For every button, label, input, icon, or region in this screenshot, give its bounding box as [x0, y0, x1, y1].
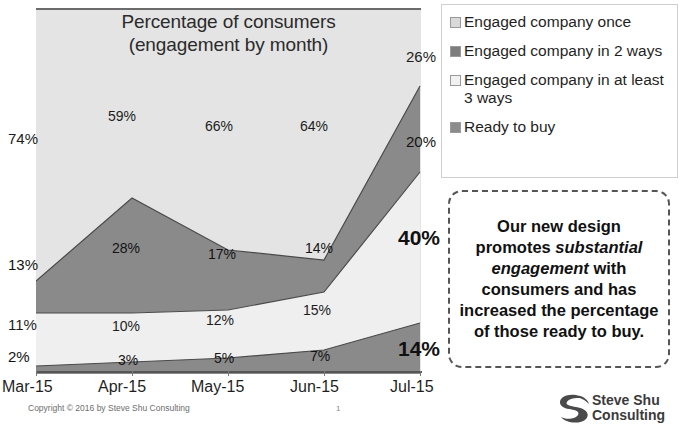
- chart-panel: Percentage of consumers (engagement by m…: [0, 0, 440, 400]
- chart-plot-area: [36, 8, 421, 374]
- legend-item-engaged-once[interactable]: Engaged company once: [450, 13, 671, 31]
- legend-label-ready-to-buy: Ready to buy: [464, 118, 555, 136]
- legend-label-engaged-2-ways: Engaged company in 2 ways: [464, 42, 662, 60]
- x-axis-labels: Mar-15 Apr-15 May-15 Jun-15 Jul-15: [0, 378, 440, 400]
- x-axis-label-apr-15: Apr-15: [98, 378, 146, 396]
- data-label-second-mar: 13%: [8, 256, 38, 273]
- x-axis-line: [36, 371, 422, 373]
- brand-logo-text: Steve Shu Consulting: [592, 393, 665, 423]
- data-label-third-mar: 11%: [8, 316, 37, 333]
- brand-logo: Steve Shu Consulting: [556, 392, 682, 426]
- legend-item-ready-to-buy[interactable]: Ready to buy: [450, 118, 671, 136]
- chart-legend: Engaged company once Engaged company in …: [441, 4, 678, 178]
- page-number: 1: [336, 404, 340, 413]
- stacked-area-chart-svg: [36, 10, 421, 374]
- brand-logo-line-2: Consulting: [592, 408, 665, 423]
- x-axis-tick-3: [324, 371, 325, 376]
- callout-text: Our new design promotes substantial enga…: [458, 216, 660, 342]
- callout-box: Our new design promotes substantial enga…: [448, 190, 670, 368]
- x-axis-tick-1: [132, 371, 133, 376]
- x-axis-label-jul-15: Jul-15: [390, 378, 434, 396]
- data-label-bottom-mar: 2%: [8, 348, 30, 365]
- legend-swatch-icon-engaged-2-ways: [450, 46, 461, 57]
- x-axis-label-may-15: May-15: [191, 378, 244, 396]
- brand-logo-line-1: Steve Shu: [592, 392, 660, 408]
- x-axis-tick-4: [420, 371, 421, 376]
- x-axis-label-jun-15: Jun-15: [290, 378, 339, 396]
- legend-label-engaged-once: Engaged company once: [464, 13, 631, 31]
- legend-swatch-icon-engaged-once: [450, 17, 461, 28]
- data-label-top-mar: 74%: [8, 130, 38, 147]
- legend-item-engaged-3-ways[interactable]: Engaged company in at least 3 ways: [450, 71, 671, 107]
- legend-swatch-icon-ready-to-buy: [450, 122, 461, 133]
- copyright-notice: Copyright © 2016 by Steve Shu Consulting: [28, 403, 190, 413]
- x-axis-tick-0: [36, 371, 37, 376]
- x-axis-label-mar-15: Mar-15: [2, 378, 53, 396]
- legend-swatch-icon-engaged-3-ways: [450, 75, 461, 86]
- legend-item-engaged-2-ways[interactable]: Engaged company in 2 ways: [450, 42, 671, 60]
- x-axis-tick-2: [228, 371, 229, 376]
- legend-label-engaged-3-ways: Engaged company in at least 3 ways: [464, 71, 671, 107]
- steve-shu-s-mark-icon: [556, 393, 590, 425]
